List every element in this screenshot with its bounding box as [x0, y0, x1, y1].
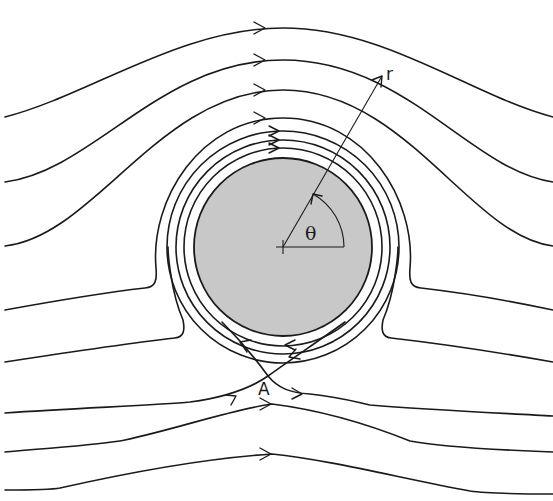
upper-arrow-icons [254, 22, 265, 124]
lower-streamlines [5, 404, 553, 494]
lower-arrow-icons [260, 398, 271, 460]
flow-diagram: r θ A [0, 0, 553, 501]
diagram-canvas: r θ A [0, 0, 553, 501]
angle-label: θ [305, 222, 316, 244]
stagnation-point-label: A [258, 379, 270, 399]
radius-label: r [386, 64, 393, 84]
